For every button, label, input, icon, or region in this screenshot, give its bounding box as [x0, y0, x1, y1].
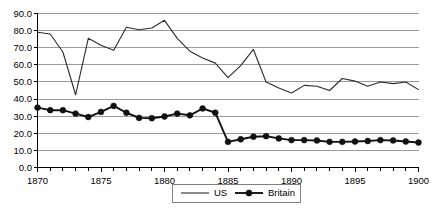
data-point-britain [187, 112, 193, 118]
y-axis-tick-label: 50.0 [14, 76, 33, 87]
x-axis-tick-label: 1900 [408, 175, 429, 186]
x-axis-tick-label: 1895 [344, 175, 365, 186]
data-point-britain [85, 114, 91, 120]
series-line-us [38, 20, 419, 94]
data-point-britain [378, 137, 384, 143]
data-point-britain [301, 137, 307, 143]
data-point-britain [251, 134, 257, 140]
data-point-britain [212, 110, 218, 116]
data-point-britain [149, 115, 155, 121]
y-axis-tick-label: 0.0 [19, 162, 32, 173]
data-point-britain [200, 106, 206, 112]
y-axis-tick-label: 90.0 [14, 8, 33, 19]
data-point-britain [162, 114, 168, 120]
y-axis-tick-label: 70.0 [14, 42, 33, 53]
legend-label-britain: Britain [268, 187, 295, 198]
data-point-britain [174, 111, 180, 117]
legend-marker-britain [246, 190, 252, 196]
y-axis-labels-group: 0.010.020.030.040.050.060.070.080.090.0 [14, 8, 33, 173]
chart-container: 0.010.020.030.040.050.060.070.080.090.0 … [0, 0, 437, 214]
data-point-britain [365, 138, 371, 144]
legend-label-us: US [214, 187, 227, 198]
data-point-britain [238, 136, 244, 142]
data-point-britain [111, 103, 117, 109]
data-point-britain [47, 107, 53, 113]
data-point-britain [225, 139, 231, 145]
data-point-britain [339, 139, 345, 145]
data-point-britain [124, 110, 130, 116]
data-point-britain [314, 138, 320, 144]
y-axis-tick-label: 80.0 [14, 25, 33, 36]
data-point-britain [327, 139, 333, 145]
data-point-britain [289, 137, 295, 143]
y-axis-tick-label: 40.0 [14, 93, 33, 104]
y-axis-tick-label: 20.0 [14, 128, 33, 139]
data-point-britain [98, 109, 104, 115]
series-line-britain [38, 106, 419, 143]
data-point-britain [263, 133, 269, 139]
y-axis-tick-label: 10.0 [14, 145, 33, 156]
data-point-britain [73, 111, 79, 117]
line-chart: 0.010.020.030.040.050.060.070.080.090.0 … [0, 0, 437, 214]
y-axis-tick-label: 60.0 [14, 59, 33, 70]
y-axis-ticks-group [34, 14, 38, 168]
data-point-britain [416, 140, 422, 146]
data-point-britain [60, 107, 66, 113]
data-point-britain [276, 136, 282, 142]
x-axis-ticks-group [38, 168, 419, 173]
data-point-britain [403, 139, 409, 145]
y-axis-tick-label: 30.0 [14, 111, 33, 122]
x-axis-tick-label: 1875 [90, 175, 111, 186]
data-point-britain [35, 105, 41, 111]
data-point-britain [352, 139, 358, 145]
x-axis-tick-label: 1870 [27, 175, 48, 186]
legend-group: USBritain [172, 184, 300, 202]
series-group [35, 20, 422, 145]
data-point-britain [390, 138, 396, 144]
data-point-britain [136, 115, 142, 121]
